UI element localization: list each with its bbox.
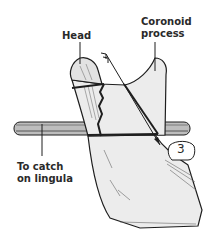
label-coronoid-line1: Coronoid — [141, 16, 192, 27]
label-coronoid-line2: process — [141, 28, 185, 39]
mandible-osteotomy-diagram: Head Coronoid process To catch on lingul… — [0, 0, 215, 232]
label-catch-line2: on lingula — [17, 173, 73, 184]
label-catch-line1: To catch — [17, 161, 63, 172]
tooth-number: 3 — [177, 144, 185, 155]
label-head: Head — [62, 30, 91, 41]
